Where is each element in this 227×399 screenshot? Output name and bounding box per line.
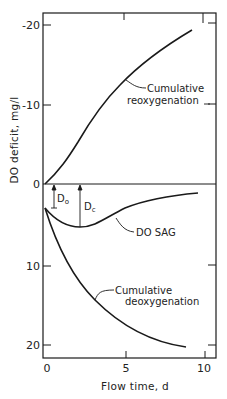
x-tick-label: 10 [197,362,211,375]
deox-leader [95,290,114,300]
y-tick-label: 20 [26,339,40,352]
sag-leader [116,218,134,232]
x-tick-label: 5 [123,362,130,375]
y-tick-label: 10 [26,260,40,273]
dc-arrow [78,185,82,227]
dc-label: Dc [84,201,96,214]
reox-label-line1: Cumulative [147,83,204,94]
x-ticks-top [124,13,203,23]
x-ticks-bottom [126,351,205,358]
y-tick-label: -20 [22,19,40,32]
y-axis-title: DO deficit, mg/l [8,96,20,183]
reox-leader [126,80,146,88]
y-tick-label: -10 [22,99,40,112]
y-tick-label: 0 [33,178,40,191]
reox-label-line2: reoxygenation [127,95,199,106]
reoxygenation-curve [45,30,192,184]
y-ticks-left [43,25,51,345]
chart-canvas: -20 -10 0 10 20 0 5 10 Flow time, d DO d… [0,0,227,399]
x-axis-title: Flow time, d [101,380,169,392]
sag-label: DO SAG [136,227,176,238]
x-tick-label: 0 [44,362,51,375]
deox-label-line1: Cumulative [115,285,172,296]
deox-label-line2: deoxygenation [125,296,199,307]
d0-label: Do [57,193,69,206]
